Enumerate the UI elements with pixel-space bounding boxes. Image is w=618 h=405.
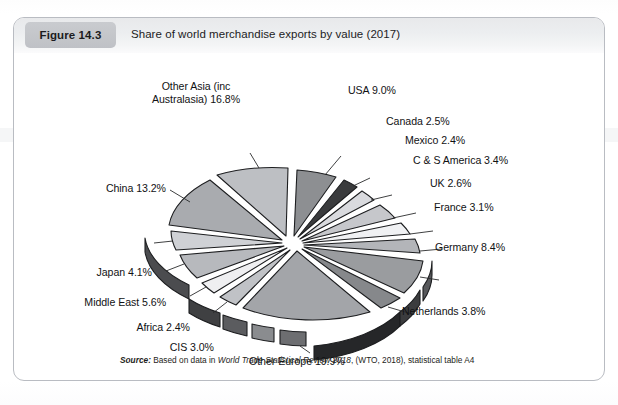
- label-germany: Germany 8.4%: [435, 241, 505, 253]
- label-africa: Africa 2.4%: [80, 321, 190, 333]
- figure-card: Figure 14.3 Share of world merchandise e…: [13, 17, 605, 381]
- scan-tint-top: [0, 0, 618, 14]
- label-cs-america: C & S America 3.4%: [413, 154, 508, 166]
- pie-chart-area: .wedge{stroke:#1d1e20;stroke-width:1.1;s…: [14, 53, 604, 380]
- figure-number-badge: Figure 14.3: [25, 22, 116, 48]
- label-middle-east: Middle East 5.6%: [38, 296, 166, 308]
- source-text-1: Based on data in: [153, 355, 215, 365]
- label-france: France 3.1%: [434, 201, 494, 213]
- source-text-2: , (WTO, 2018), statistical table A4: [351, 355, 474, 365]
- label-mexico: Mexico 2.4%: [405, 134, 465, 146]
- label-other-asia: Other Asia (inc Australasia) 16.8%: [136, 80, 256, 106]
- figure-header-band: Figure 14.3 Share of world merchandise e…: [14, 18, 604, 54]
- label-usa: USA 9.0%: [348, 84, 396, 96]
- figure-caption: Share of world merchandise exports by va…: [131, 28, 400, 40]
- source-publication: World Trade Statistical Review 2018: [218, 355, 351, 365]
- label-canada: Canada 2.5%: [386, 115, 450, 127]
- label-cis: CIS 3.0%: [114, 341, 214, 353]
- label-netherlands: Netherlands 3.8%: [402, 305, 485, 317]
- source-prefix: Source:: [120, 355, 151, 365]
- label-japan: Japan 4.1%: [40, 266, 152, 278]
- figure-source-note: Source: Based on data in World Trade Sta…: [120, 355, 474, 365]
- label-china: China 13.2%: [38, 182, 166, 194]
- label-uk: UK 2.6%: [430, 177, 471, 189]
- scan-tint-bottom: [0, 381, 618, 405]
